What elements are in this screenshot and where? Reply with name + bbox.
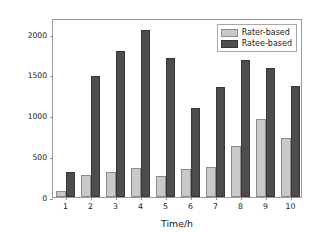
y-tick-mark — [50, 158, 53, 159]
bar-ratee-based-2 — [91, 76, 101, 197]
x-tick-mark — [266, 197, 267, 200]
y-tick-mark — [50, 199, 53, 200]
bar-ratee-based-8 — [241, 60, 251, 197]
bar-rater-based-7 — [206, 167, 216, 198]
bar-rater-based-1 — [56, 191, 66, 197]
bar-ratee-based-10 — [291, 86, 301, 197]
x-tick-mark — [216, 197, 217, 200]
y-tick-mark — [50, 36, 53, 37]
bar-ratee-based-3 — [116, 51, 126, 197]
legend-label-ratee-based: Ratee-based — [242, 39, 292, 48]
legend-item-rater-based: Rater-based — [221, 28, 292, 37]
x-tick-label: 10 — [279, 202, 303, 211]
y-tick-label: 1000 — [28, 112, 47, 121]
bar-rater-based-2 — [81, 175, 91, 197]
bar-ratee-based-9 — [266, 68, 276, 197]
x-tick-label: 2 — [79, 202, 103, 211]
bar-rater-based-6 — [181, 169, 191, 197]
y-tick-mark — [50, 117, 53, 118]
legend-swatch-rater-based — [221, 29, 238, 37]
x-tick-mark — [91, 197, 92, 200]
x-tick-mark — [191, 197, 192, 200]
x-tick-label: 9 — [254, 202, 278, 211]
legend-label-rater-based: Rater-based — [242, 28, 290, 37]
x-tick-mark — [166, 197, 167, 200]
bar-rater-based-10 — [281, 138, 291, 197]
bar-rater-based-9 — [256, 119, 266, 197]
bar-ratee-based-5 — [166, 58, 176, 197]
legend-swatch-ratee-based — [221, 40, 238, 48]
bar-ratee-based-6 — [191, 108, 201, 198]
y-tick-label: 0 — [42, 194, 47, 203]
x-tick-label: 1 — [54, 202, 78, 211]
x-tick-mark — [66, 197, 67, 200]
bar-ratee-based-4 — [141, 30, 151, 197]
x-tick-label: 3 — [104, 202, 128, 211]
x-tick-label: 5 — [154, 202, 178, 211]
bar-rater-based-4 — [131, 168, 141, 197]
legend-item-ratee-based: Ratee-based — [221, 39, 292, 48]
x-axis-label: Time/h — [161, 218, 193, 229]
y-tick-label: 1500 — [28, 71, 47, 80]
bar-rater-based-8 — [231, 146, 241, 197]
x-tick-label: 4 — [129, 202, 153, 211]
chart-legend: Rater-based Ratee-based — [217, 24, 297, 52]
x-tick-mark — [141, 197, 142, 200]
x-tick-mark — [241, 197, 242, 200]
x-tick-mark — [116, 197, 117, 200]
x-tick-label: 7 — [204, 202, 228, 211]
y-tick-label: 2000 — [28, 31, 47, 40]
bar-ratee-based-1 — [66, 172, 76, 197]
bar-rater-based-5 — [156, 176, 166, 197]
bar-chart-figure: Transaction number growth 05001000150020… — [0, 0, 318, 232]
bar-ratee-based-7 — [216, 87, 226, 197]
x-tick-label: 6 — [179, 202, 203, 211]
x-axis-label-wrapper: Time/h — [52, 212, 302, 231]
plot-area: 0500100015002000 12345678910 Rater-based… — [52, 19, 302, 198]
x-tick-mark — [291, 197, 292, 200]
bar-rater-based-3 — [106, 172, 116, 197]
y-tick-label: 500 — [33, 153, 48, 162]
x-tick-label: 8 — [229, 202, 253, 211]
y-tick-mark — [50, 76, 53, 77]
